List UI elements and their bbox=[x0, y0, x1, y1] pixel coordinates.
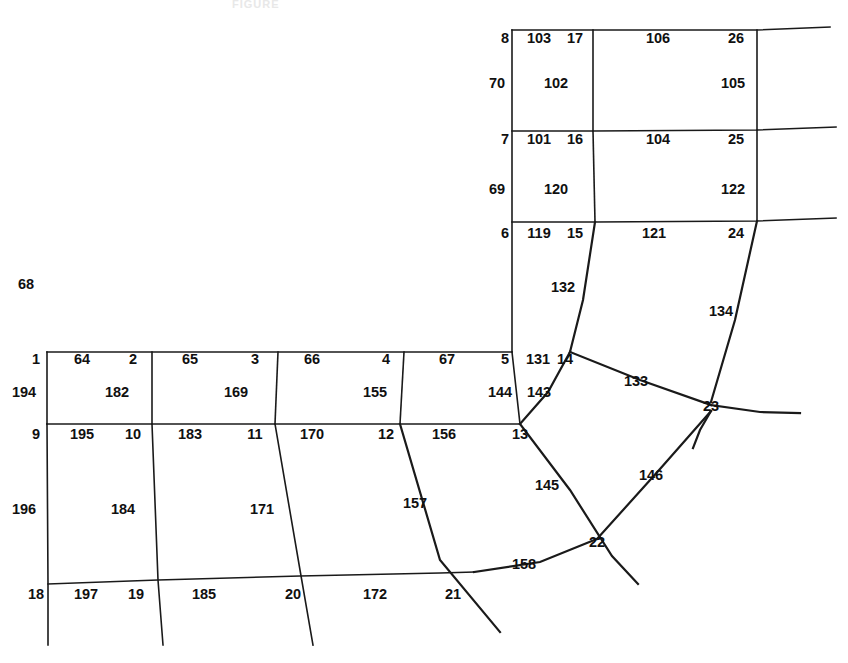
edge-label-172: 172 bbox=[363, 586, 387, 602]
node-label-1: 1 bbox=[32, 351, 40, 367]
node-label-2: 2 bbox=[129, 351, 137, 367]
edge-label-105: 105 bbox=[721, 75, 745, 91]
mesh-edge-edge-145-13-22 bbox=[520, 424, 638, 584]
mesh-diagram-root: FIGURE 646566676869701011021031041051061… bbox=[0, 0, 848, 663]
node-label-20: 20 bbox=[285, 586, 301, 602]
mesh-edge-top-horizontal-row8 bbox=[512, 27, 830, 30]
node-label-8: 8 bbox=[501, 30, 509, 46]
edge-label-132: 132 bbox=[551, 279, 575, 295]
edge-label-120: 120 bbox=[544, 181, 568, 197]
edge-label-64: 64 bbox=[74, 351, 90, 367]
edge-label-121: 121 bbox=[642, 225, 666, 241]
edge-label-194: 194 bbox=[12, 384, 36, 400]
mesh-edge-edge-184-10-19 bbox=[152, 424, 163, 645]
edge-label-106: 106 bbox=[646, 30, 670, 46]
node-label-7: 7 bbox=[501, 131, 509, 147]
edge-label-104: 104 bbox=[646, 131, 670, 147]
edge-label-155: 155 bbox=[363, 384, 387, 400]
edge-label-68: 68 bbox=[18, 276, 34, 292]
edge-label-195: 195 bbox=[70, 426, 94, 442]
edge-label-182: 182 bbox=[105, 384, 129, 400]
mesh-edge-edge-171-11-20 bbox=[275, 424, 313, 645]
mesh-edge-grid-bottom-row18 bbox=[48, 572, 474, 584]
edge-label-133: 133 bbox=[624, 373, 648, 389]
node-label-18: 18 bbox=[28, 586, 44, 602]
edge-label-67: 67 bbox=[439, 351, 455, 367]
node-label-9: 9 bbox=[32, 426, 40, 442]
edge-label-69: 69 bbox=[489, 181, 505, 197]
edge-label-156: 156 bbox=[432, 426, 456, 442]
mesh-label-group: 6465666768697010110210310410510611912012… bbox=[12, 30, 745, 602]
edge-label-119: 119 bbox=[527, 225, 550, 241]
edge-label-185: 185 bbox=[192, 586, 216, 602]
edge-label-197: 197 bbox=[74, 586, 98, 602]
node-label-26: 26 bbox=[728, 30, 744, 46]
node-label-24: 24 bbox=[728, 225, 744, 241]
mesh-edge-vertical-col16 bbox=[593, 131, 595, 222]
edge-label-145: 145 bbox=[535, 477, 559, 493]
edge-label-184: 184 bbox=[111, 501, 135, 517]
mesh-edge-vertical-4-12 bbox=[400, 352, 404, 424]
node-label-19: 19 bbox=[128, 586, 144, 602]
node-label-16: 16 bbox=[567, 131, 583, 147]
node-label-13: 13 bbox=[512, 426, 528, 442]
node-label-4: 4 bbox=[382, 351, 390, 367]
node-label-11: 11 bbox=[247, 426, 262, 442]
edge-label-157: 157 bbox=[403, 495, 427, 511]
node-label-17: 17 bbox=[567, 30, 583, 46]
edge-label-103: 103 bbox=[527, 30, 551, 46]
mesh-edge-vertical-3-11 bbox=[275, 352, 278, 424]
node-label-14: 14 bbox=[557, 351, 573, 367]
node-label-5: 5 bbox=[501, 351, 509, 367]
node-label-22: 22 bbox=[589, 534, 605, 550]
node-label-6: 6 bbox=[501, 225, 509, 241]
edge-label-131: 131 bbox=[526, 351, 550, 367]
edge-label-70: 70 bbox=[489, 75, 505, 91]
edge-label-134: 134 bbox=[709, 303, 733, 319]
mesh-edge-horizontal-row7 bbox=[512, 127, 836, 131]
node-label-23: 23 bbox=[703, 398, 719, 414]
faint-title-text: FIGURE bbox=[232, 0, 280, 10]
node-label-3: 3 bbox=[251, 351, 259, 367]
edge-label-169: 169 bbox=[224, 384, 248, 400]
mesh-edge-vertical-5-13 bbox=[512, 352, 520, 424]
edge-label-122: 122 bbox=[721, 181, 745, 197]
edge-label-144: 144 bbox=[488, 384, 512, 400]
edge-label-196: 196 bbox=[12, 501, 36, 517]
mesh-edge-horizontal-row6 bbox=[512, 218, 836, 222]
node-label-15: 15 bbox=[567, 225, 583, 241]
edge-label-146: 146 bbox=[639, 467, 663, 483]
edge-label-158: 158 bbox=[512, 556, 536, 572]
edge-label-183: 183 bbox=[178, 426, 202, 442]
mesh-edge-edge-196-9-18 bbox=[47, 424, 48, 645]
mesh-edge-edge-23-right-tail bbox=[711, 405, 800, 413]
edge-label-171: 171 bbox=[250, 501, 274, 517]
edge-label-101: 101 bbox=[527, 131, 551, 147]
node-label-25: 25 bbox=[728, 131, 744, 147]
edge-label-170: 170 bbox=[300, 426, 324, 442]
node-label-21: 21 bbox=[445, 586, 461, 602]
edge-label-65: 65 bbox=[182, 351, 198, 367]
node-label-12: 12 bbox=[378, 426, 394, 442]
edge-label-102: 102 bbox=[544, 75, 568, 91]
edge-label-66: 66 bbox=[304, 351, 320, 367]
mesh-edge-group bbox=[47, 27, 836, 645]
mesh-svg-canvas: FIGURE 646566676869701011021031041051061… bbox=[0, 0, 848, 663]
node-label-10: 10 bbox=[125, 426, 141, 442]
edge-label-143: 143 bbox=[527, 384, 551, 400]
